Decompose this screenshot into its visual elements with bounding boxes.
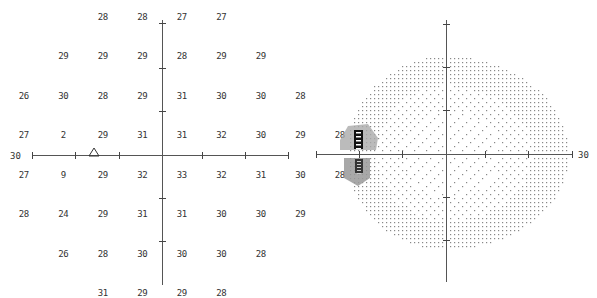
threshold-value: 30	[133, 249, 151, 259]
threshold-value: 31	[173, 130, 191, 140]
threshold-value: 29	[173, 288, 191, 298]
y-tick	[443, 24, 450, 25]
threshold-value: 29	[94, 130, 112, 140]
threshold-value: 30	[212, 209, 230, 219]
x-tick	[359, 151, 360, 158]
threshold-value: 30	[252, 91, 270, 101]
blind-spot-triangle-icon	[88, 147, 100, 157]
x-tick	[572, 151, 573, 158]
x-tick	[245, 152, 246, 159]
threshold-value: 31	[252, 170, 270, 180]
y-tick	[159, 198, 166, 199]
threshold-value: 27	[173, 12, 191, 22]
threshold-value: 28	[15, 209, 33, 219]
y-tick	[159, 68, 166, 69]
threshold-value: 29	[133, 288, 151, 298]
threshold-value: 31	[133, 209, 151, 219]
threshold-value: 28	[173, 51, 191, 61]
threshold-value: 31	[133, 130, 151, 140]
x-tick	[316, 151, 317, 158]
threshold-value: 30	[252, 209, 270, 219]
threshold-value: 28	[252, 249, 270, 259]
threshold-value: 9	[54, 170, 72, 180]
x-tick	[288, 152, 289, 159]
threshold-value: 26	[54, 249, 72, 259]
threshold-value: 30	[212, 249, 230, 259]
threshold-value: 28	[212, 288, 230, 298]
y-tick	[443, 197, 450, 198]
threshold-value: 28	[133, 12, 151, 22]
x-tick	[528, 151, 529, 158]
threshold-value: 32	[133, 170, 151, 180]
threshold-value: 29	[94, 51, 112, 61]
threshold-value: 32	[212, 130, 230, 140]
x-axis-label: 30	[10, 151, 21, 161]
threshold-value: 30	[252, 130, 270, 140]
y-tick	[159, 111, 166, 112]
x-tick	[485, 151, 486, 158]
x-tick	[75, 152, 76, 159]
y-tick	[443, 240, 450, 241]
y-tick	[159, 23, 166, 24]
x-axis-label: 30	[578, 150, 589, 160]
threshold-value: 31	[173, 91, 191, 101]
threshold-value: 31	[94, 288, 112, 298]
threshold-value: 29	[252, 51, 270, 61]
threshold-value: 28	[94, 91, 112, 101]
greyscale-plot: 30	[300, 0, 597, 291]
threshold-value: 29	[94, 170, 112, 180]
threshold-value: 28	[94, 249, 112, 259]
threshold-value: 24	[54, 209, 72, 219]
threshold-value: 30	[54, 91, 72, 101]
vertical-axis	[162, 20, 163, 285]
threshold-value: 29	[94, 209, 112, 219]
threshold-value: 29	[133, 51, 151, 61]
threshold-value: 30	[173, 249, 191, 259]
horizontal-axis	[32, 155, 289, 156]
threshold-value: 27	[15, 170, 33, 180]
threshold-values-plot: 30 2828272729292928292926302829313030282…	[0, 0, 300, 291]
greyscale-map	[300, 0, 597, 291]
threshold-value: 27	[15, 130, 33, 140]
y-tick	[443, 67, 450, 68]
y-tick	[159, 241, 166, 242]
x-tick	[202, 152, 203, 159]
threshold-value: 29	[212, 51, 230, 61]
threshold-value: 29	[54, 51, 72, 61]
threshold-value: 29	[133, 91, 151, 101]
x-tick	[119, 152, 120, 159]
x-tick	[402, 151, 403, 158]
vertical-axis	[446, 20, 447, 282]
threshold-value: 26	[15, 91, 33, 101]
y-tick	[443, 110, 450, 111]
threshold-value: 28	[94, 12, 112, 22]
threshold-value: 33	[173, 170, 191, 180]
threshold-value: 27	[212, 12, 230, 22]
horizontal-axis	[316, 154, 573, 155]
threshold-value: 30	[212, 91, 230, 101]
threshold-value: 32	[212, 170, 230, 180]
x-tick	[32, 152, 33, 159]
threshold-value: 2	[54, 130, 72, 140]
threshold-value: 31	[173, 209, 191, 219]
